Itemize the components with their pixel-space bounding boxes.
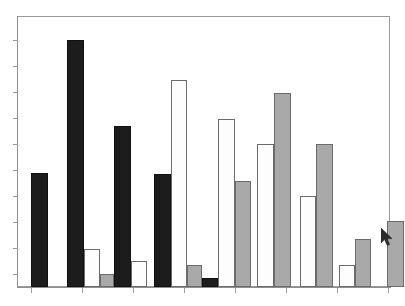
bar-18-gray	[355, 239, 371, 287]
bar-2-black	[67, 40, 84, 287]
bar-13-white	[257, 144, 274, 287]
bar-17-white	[339, 265, 355, 287]
bar-8-white	[171, 80, 187, 287]
bar-19-gray	[387, 221, 404, 287]
bar-10-black	[202, 278, 218, 287]
bar-14-gray	[274, 93, 291, 287]
bar-9-gray	[187, 265, 202, 287]
bar-16-gray	[316, 144, 333, 287]
x-axis	[17, 287, 391, 288]
x-tick-7	[388, 288, 389, 293]
x-tick-0	[31, 288, 32, 293]
bar-3-white	[84, 249, 100, 287]
x-tick-5	[286, 288, 287, 293]
bar-11-white	[218, 119, 235, 287]
bar-5-black	[114, 126, 131, 287]
x-tick-2	[133, 288, 134, 293]
bar-7-black	[154, 174, 171, 287]
bar-12-gray	[235, 181, 251, 287]
x-tick-6	[337, 288, 338, 293]
x-tick-1	[82, 288, 83, 293]
x-tick-4	[235, 288, 236, 293]
bar-15-white	[300, 196, 316, 287]
bar-1-black	[31, 173, 48, 287]
x-tick-3	[184, 288, 185, 293]
bar-6-white	[131, 261, 147, 287]
chart-screenshot	[0, 0, 405, 306]
bar-4-gray	[100, 274, 114, 287]
bar-series-container	[17, 16, 390, 287]
